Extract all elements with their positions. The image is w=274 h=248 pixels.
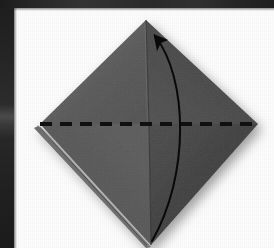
scan-edge-top — [0, 0, 274, 8]
scanned-figure-page: Gray square sheet rotated 45 degrees (di… — [0, 0, 274, 248]
origami-diagram — [0, 0, 274, 248]
scan-edge-left — [0, 0, 14, 248]
